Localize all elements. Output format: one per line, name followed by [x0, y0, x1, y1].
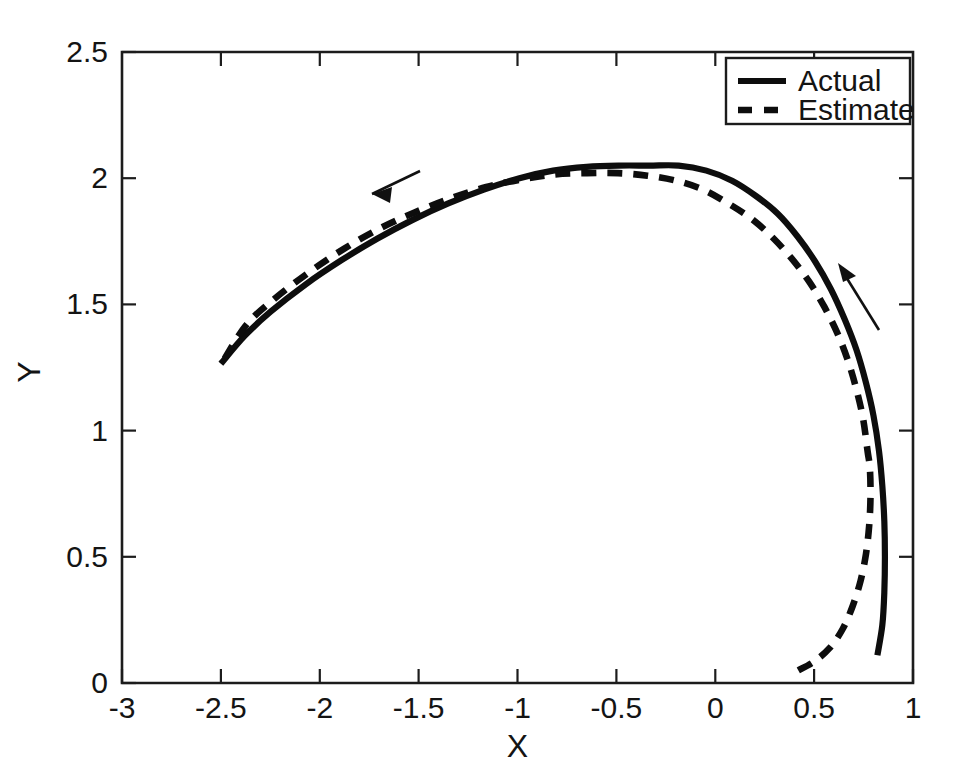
- x-tick-label: 0: [707, 691, 724, 724]
- plot-background: [122, 52, 913, 683]
- x-tick-label: 1: [905, 691, 922, 724]
- x-tick-labels: -3 -2.5 -2 -1.5 -1 -0.5 0 0.5 1: [109, 691, 922, 724]
- x-tick-label: 0.5: [793, 691, 835, 724]
- x-tick-label: -3: [109, 691, 136, 724]
- x-tick-label: -1.5: [393, 691, 445, 724]
- y-tick-label: 2: [91, 161, 108, 194]
- x-tick-label: -2.5: [195, 691, 247, 724]
- y-tick-label: 0: [91, 666, 108, 699]
- y-tick-label: 1: [91, 414, 108, 447]
- y-tick-label: 1.5: [66, 287, 108, 320]
- trajectory-chart: -3 -2.5 -2 -1.5 -1 -0.5 0 0.5 1 0 0.5 1 …: [0, 0, 961, 777]
- legend: Actual Estimate: [726, 58, 915, 126]
- x-tick-label: -0.5: [591, 691, 643, 724]
- x-tick-label: -1: [504, 691, 531, 724]
- figure-container: -3 -2.5 -2 -1.5 -1 -0.5 0 0.5 1 0 0.5 1 …: [0, 0, 961, 777]
- x-axis-title: X: [507, 728, 528, 764]
- legend-label-estimate: Estimate: [798, 93, 915, 126]
- y-tick-label: 0.5: [66, 540, 108, 573]
- y-axis-title: Y: [11, 361, 47, 382]
- y-tick-labels: 0 0.5 1 1.5 2 2.5: [66, 35, 108, 699]
- y-tick-label: 2.5: [66, 35, 108, 68]
- x-tick-label: -2: [306, 691, 333, 724]
